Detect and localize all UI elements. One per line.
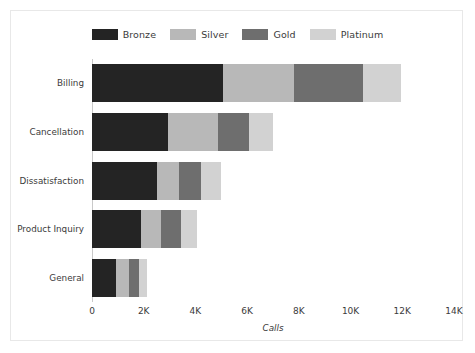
legend-item-bronze[interactable]: Bronze [92,29,156,40]
category-label: Billing [57,78,84,88]
bar-segment-bronze[interactable] [92,259,116,297]
bar-segment-silver[interactable] [141,210,161,248]
x-tick-label: 10K [342,306,359,316]
legend-swatch-platinum [310,29,336,40]
category-label: Cancellation [30,127,85,137]
legend-label: Gold [273,29,295,40]
category-label: General [49,273,84,283]
bar-segment-gold[interactable] [129,259,139,297]
category-label: Dissatisfaction [20,176,84,186]
bar-segment-silver[interactable] [157,162,179,200]
bar-segment-bronze[interactable] [92,162,157,200]
plot-area: BillingCancellationDissatisfactionProduc… [92,59,454,302]
bar-segment-gold[interactable] [179,162,200,200]
bar-stack[interactable] [92,113,273,151]
x-tick-label: 14K [445,306,462,316]
legend-label: Silver [201,29,228,40]
legend-swatch-gold [242,29,268,40]
x-axis-title: Calls [92,323,454,333]
category-label: Product Inquiry [17,224,84,234]
bar-segment-silver[interactable] [116,259,129,297]
legend-item-silver[interactable]: Silver [170,29,228,40]
x-tick-label: 6K [241,306,253,316]
legend-label: Platinum [341,29,384,40]
x-tick-label: 2K [138,306,150,316]
legend-swatch-bronze [92,29,118,40]
bar-segment-platinum[interactable] [181,210,197,248]
bar-segment-gold[interactable] [218,113,249,151]
bar-segment-gold[interactable] [161,210,181,248]
legend-item-platinum[interactable]: Platinum [310,29,384,40]
x-tick-label: 4K [190,306,202,316]
bar-segment-platinum[interactable] [139,259,147,297]
x-tick-label: 0 [89,306,95,316]
x-tick-label: 12K [394,306,411,316]
bar-segment-bronze[interactable] [92,64,223,102]
chart-legend: BronzeSilverGoldPlatinum [11,29,464,40]
bar-stack[interactable] [92,64,401,102]
bar-stack[interactable] [92,259,147,297]
bar-stack[interactable] [92,162,221,200]
chart-card: BronzeSilverGoldPlatinum BillingCancella… [10,10,463,341]
bar-segment-bronze[interactable] [92,210,141,248]
x-axis-ticks: 02K4K6K8K10K12K14K [92,302,454,320]
bar-segment-silver[interactable] [168,113,218,151]
x-tick-label: 8K [293,306,305,316]
legend-label: Bronze [123,29,156,40]
bar-segment-platinum[interactable] [201,162,221,200]
legend-item-gold[interactable]: Gold [242,29,295,40]
bar-stack[interactable] [92,210,197,248]
bar-segment-bronze[interactable] [92,113,168,151]
bar-segment-platinum[interactable] [363,64,401,102]
bar-segment-silver[interactable] [223,64,294,102]
bar-segment-gold[interactable] [294,64,363,102]
legend-swatch-silver [170,29,196,40]
bar-segment-platinum[interactable] [249,113,273,151]
